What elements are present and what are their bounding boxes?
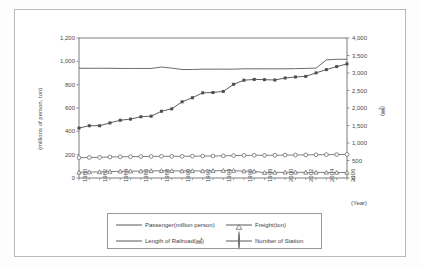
figure-frame: (millions of person, ton) (㎣) (Year) 020… <box>14 9 406 257</box>
legend-marker-circle-icon <box>226 236 252 246</box>
legend-marker-triangle-icon <box>226 220 252 230</box>
legend-item-number-of-station[interactable]: Number of Station <box>226 234 303 247</box>
legend-label-passenger: Passenger(million person) <box>145 222 215 228</box>
screenshot-page: (millions of person, ton) (㎣) (Year) 020… <box>0 0 422 268</box>
legend-item-length-of-railroad[interactable]: Length of Railroad(㎣) <box>116 234 204 247</box>
legend-marker-square-icon <box>116 220 142 230</box>
legend-label-freight: Freight(ton) <box>255 222 286 228</box>
legend-item-passenger[interactable]: Passenger(million person) <box>116 218 215 231</box>
legend-item-freight[interactable]: Freight(ton) <box>226 218 286 231</box>
chart-figure: (millions of person, ton) (㎣) (Year) 020… <box>15 10 407 258</box>
legend-label-length-of-railroad: Length of Railroad(㎣) <box>145 238 204 244</box>
chart-legend: Passenger(million person) Freight(ton) <box>107 213 322 249</box>
legend-label-number-of-station: Number of Station <box>255 238 303 244</box>
legend-marker-line-icon <box>116 236 142 246</box>
